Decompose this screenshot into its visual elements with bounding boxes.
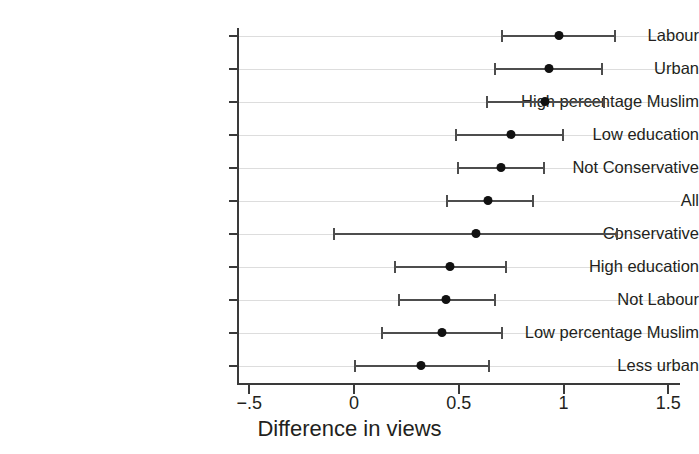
- confidence-interval-row: [0, 227, 699, 241]
- forest-plot-figure: LabourUrbanHigh percentage MuslimLow edu…: [0, 0, 699, 454]
- estimate-point-marker: [446, 262, 455, 271]
- estimate-point-marker: [442, 295, 451, 304]
- confidence-interval-row: [0, 161, 699, 175]
- confidence-interval-lower-cap: [394, 261, 396, 273]
- estimate-point-marker: [507, 130, 516, 139]
- confidence-interval-upper-cap: [614, 30, 616, 42]
- x-axis-tick-label: 0: [349, 393, 359, 415]
- x-axis-tick-label: 1.5: [656, 393, 681, 415]
- confidence-interval-lower-cap: [501, 30, 503, 42]
- confidence-interval-row: [0, 128, 699, 142]
- confidence-interval-row: [0, 326, 699, 340]
- confidence-interval-lower-cap: [494, 63, 496, 75]
- confidence-interval-row: [0, 29, 699, 43]
- confidence-interval-upper-cap: [505, 261, 507, 273]
- confidence-interval-upper-cap: [616, 228, 618, 240]
- confidence-interval-row: [0, 359, 699, 373]
- confidence-interval-lower-cap: [381, 327, 383, 339]
- estimate-point-marker: [555, 31, 564, 40]
- x-axis-title: Difference in views: [0, 417, 699, 441]
- confidence-interval-upper-cap: [603, 96, 605, 108]
- confidence-interval-lower-cap: [455, 129, 457, 141]
- confidence-interval-lower-cap: [333, 228, 335, 240]
- confidence-interval-upper-cap: [562, 129, 564, 141]
- plot-area: LabourUrbanHigh percentage MuslimLow edu…: [0, 0, 699, 454]
- estimate-point-marker: [471, 229, 480, 238]
- confidence-interval-row: [0, 194, 699, 208]
- confidence-interval-row: [0, 95, 699, 109]
- estimate-point-marker: [484, 196, 493, 205]
- x-axis-tick-label: −.5: [236, 393, 262, 415]
- confidence-interval-upper-cap: [494, 294, 496, 306]
- confidence-interval-lower-cap: [398, 294, 400, 306]
- confidence-interval-lower-cap: [446, 195, 448, 207]
- estimate-point-marker: [417, 361, 426, 370]
- confidence-interval-lower-cap: [486, 96, 488, 108]
- confidence-interval-lower-cap: [354, 360, 356, 372]
- estimate-point-marker: [544, 64, 553, 73]
- confidence-interval-row: [0, 293, 699, 307]
- confidence-interval-upper-cap: [488, 360, 490, 372]
- confidence-interval-row: [0, 62, 699, 76]
- estimate-point-marker: [496, 163, 505, 172]
- confidence-interval-upper-cap: [601, 63, 603, 75]
- confidence-interval-lower-cap: [457, 162, 459, 174]
- x-axis-tick-label: 1: [558, 393, 568, 415]
- estimate-point-marker: [437, 328, 446, 337]
- confidence-interval-row: [0, 260, 699, 274]
- confidence-interval-upper-cap: [532, 195, 534, 207]
- confidence-interval-upper-cap: [501, 327, 503, 339]
- estimate-point-marker: [540, 97, 549, 106]
- confidence-interval-upper-cap: [543, 162, 545, 174]
- x-axis-tick-label: 0.5: [446, 393, 471, 415]
